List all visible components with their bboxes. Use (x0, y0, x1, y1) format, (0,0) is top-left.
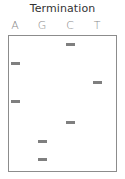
band-c (66, 43, 75, 46)
figure-title: Termination (0, 2, 125, 15)
band-a (11, 62, 20, 65)
lane-label-a: A (5, 19, 25, 32)
gel-frame (8, 35, 117, 172)
band-g (38, 140, 47, 143)
lane-label-g: G (32, 19, 52, 32)
lane-label-t: T (87, 19, 107, 32)
band-c (66, 121, 75, 124)
band-g (38, 158, 47, 161)
band-t (93, 81, 102, 84)
band-a (11, 100, 20, 103)
lane-label-c: C (60, 19, 80, 32)
